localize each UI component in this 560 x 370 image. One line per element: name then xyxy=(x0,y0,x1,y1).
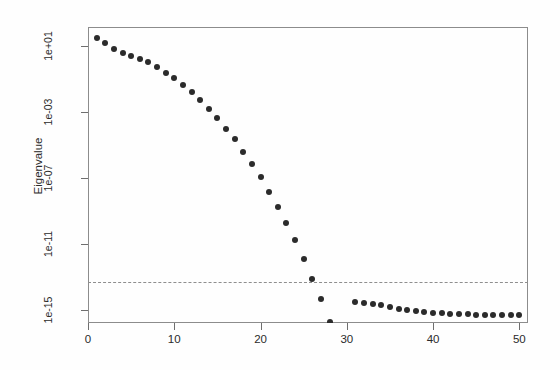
data-point xyxy=(456,311,462,317)
data-point xyxy=(249,161,255,167)
x-tick xyxy=(433,323,434,330)
data-point xyxy=(318,296,324,302)
y-tick-label-wrap: 1e-07 xyxy=(18,171,78,185)
x-tick-label: 50 xyxy=(499,333,539,345)
data-point xyxy=(309,276,315,282)
data-point xyxy=(163,70,169,76)
y-tick xyxy=(81,310,88,311)
data-point xyxy=(292,237,298,243)
threshold-dashed-line xyxy=(88,282,528,283)
y-tick-label-wrap: 1e-15 xyxy=(18,303,78,317)
data-point xyxy=(361,300,367,306)
data-point xyxy=(396,306,402,312)
x-tick-label: 0 xyxy=(68,333,108,345)
data-point xyxy=(120,50,126,56)
data-points-layer xyxy=(88,27,528,323)
x-tick-label: 10 xyxy=(154,333,194,345)
data-point xyxy=(171,75,177,81)
x-tick xyxy=(347,323,348,330)
y-tick xyxy=(81,244,88,245)
data-point xyxy=(154,64,160,70)
data-point xyxy=(266,189,272,195)
data-point xyxy=(465,311,471,317)
data-point xyxy=(378,302,384,308)
y-tick-label: 1e+01 xyxy=(41,16,55,76)
data-point xyxy=(283,220,289,226)
y-tick-label: 1e-15 xyxy=(41,280,55,340)
y-tick-label: 1e-11 xyxy=(41,214,55,274)
x-tick xyxy=(88,323,89,330)
x-tick xyxy=(519,323,520,330)
data-point xyxy=(197,97,203,103)
data-point xyxy=(189,89,195,95)
data-point xyxy=(301,256,307,262)
y-tick-label-wrap: 1e-11 xyxy=(18,237,78,251)
x-tick xyxy=(174,323,175,330)
scree-plot-figure: Eigenvalue 1e+011e-031e-071e-111e-15 010… xyxy=(0,0,560,370)
x-tick-label: 30 xyxy=(327,333,367,345)
data-point xyxy=(232,136,238,142)
data-point xyxy=(508,312,514,318)
data-point xyxy=(404,307,410,313)
data-point xyxy=(413,308,419,314)
data-point xyxy=(482,312,488,318)
x-tick-label: 40 xyxy=(413,333,453,345)
data-point xyxy=(137,56,143,62)
data-point xyxy=(214,115,220,121)
data-point xyxy=(145,59,151,65)
data-point xyxy=(111,46,117,52)
x-tick xyxy=(261,323,262,330)
data-point xyxy=(258,174,264,180)
data-point xyxy=(387,304,393,310)
data-point xyxy=(473,312,479,318)
y-tick xyxy=(81,46,88,47)
data-point xyxy=(370,301,376,307)
y-tick-label: 1e-03 xyxy=(41,82,55,142)
data-point xyxy=(447,311,453,317)
data-point xyxy=(421,309,427,315)
x-tick-label: 20 xyxy=(241,333,281,345)
data-point xyxy=(180,82,186,88)
data-point xyxy=(240,149,246,155)
data-point xyxy=(490,312,496,318)
data-point xyxy=(327,319,333,323)
data-point xyxy=(439,310,445,316)
y-tick xyxy=(81,112,88,113)
data-point xyxy=(206,106,212,112)
data-point xyxy=(128,53,134,59)
data-point xyxy=(499,312,505,318)
y-tick-label-wrap: 1e+01 xyxy=(18,39,78,53)
y-tick xyxy=(81,178,88,179)
data-point xyxy=(275,204,281,210)
data-point xyxy=(352,299,358,305)
data-point xyxy=(430,310,436,316)
data-point xyxy=(102,40,108,46)
data-point xyxy=(223,126,229,132)
y-tick-label-wrap: 1e-03 xyxy=(18,105,78,119)
y-tick-label: 1e-07 xyxy=(41,148,55,208)
data-point xyxy=(94,35,100,41)
data-point xyxy=(516,312,522,318)
